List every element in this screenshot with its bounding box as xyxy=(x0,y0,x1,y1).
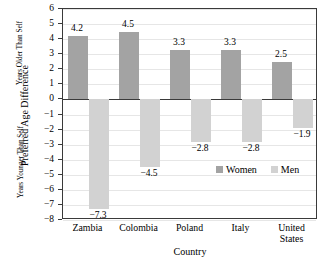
y-tick-label: 1 xyxy=(32,78,54,88)
bar-women xyxy=(272,62,292,100)
y-tick-mark xyxy=(58,83,62,84)
bar-women xyxy=(170,50,190,100)
y-tick-label: 4 xyxy=(32,33,54,43)
bar-men xyxy=(293,99,313,128)
y-tick-label: −1 xyxy=(32,109,54,119)
bar-women xyxy=(221,50,241,100)
legend-label: Men xyxy=(281,164,299,175)
bar-men xyxy=(191,99,211,141)
x-tick-label: Zambia xyxy=(62,222,113,233)
y-tick-label: 0 xyxy=(32,93,54,103)
legend-label: Women xyxy=(226,164,257,175)
x-tick-label-line: States xyxy=(266,233,317,244)
y-tick-mark xyxy=(58,98,62,99)
legend: WomenMen xyxy=(216,164,299,175)
legend-swatch-men xyxy=(271,166,278,173)
x-tick-label-line: Colombia xyxy=(113,222,164,233)
y-tick-mark xyxy=(58,204,62,205)
y-tick-mark xyxy=(58,68,62,69)
bar-women xyxy=(119,32,139,100)
y-tick-mark xyxy=(58,189,62,190)
gridline xyxy=(63,9,316,10)
y-tick-mark xyxy=(58,114,62,115)
bar-women xyxy=(68,36,88,99)
y-tick-label: 5 xyxy=(32,18,54,28)
y-tick-label: 2 xyxy=(32,63,54,73)
legend-swatch-women xyxy=(216,166,223,173)
y-tick-label: −7 xyxy=(32,199,54,209)
bar-value-label-women: 4.2 xyxy=(58,23,96,33)
x-axis-title: Country xyxy=(60,246,320,257)
bar-value-label-men: −1.9 xyxy=(282,129,322,139)
y-tick-label: −6 xyxy=(32,184,54,194)
bar-men xyxy=(89,99,109,209)
y-tick-label: −8 xyxy=(32,214,54,224)
legend-entry: Men xyxy=(271,164,299,175)
y-tick-mark xyxy=(58,38,62,39)
bar-value-label-men: −2.8 xyxy=(231,143,271,153)
y-tick-mark xyxy=(58,53,62,54)
x-tick-label: Colombia xyxy=(113,222,164,233)
y-tick-label: −2 xyxy=(32,124,54,134)
legend-entry: Women xyxy=(216,164,257,175)
y-tick-mark xyxy=(58,219,62,220)
y-axis-subtitle-lower: Years Younger Than Self xyxy=(17,114,25,210)
x-tick-label: UnitedStates xyxy=(266,222,317,244)
y-tick-mark xyxy=(58,174,62,175)
bar-value-label-women: 4.5 xyxy=(109,19,147,29)
bar-value-label-men: −4.5 xyxy=(129,168,169,178)
x-tick-label: Italy xyxy=(215,222,266,233)
bar-value-label-women: 2.5 xyxy=(262,49,300,59)
y-tick-label: −4 xyxy=(32,154,54,164)
bar-men xyxy=(140,99,160,167)
y-tick-label: −5 xyxy=(32,169,54,179)
y-tick-mark xyxy=(58,129,62,130)
bar-value-label-women: 3.3 xyxy=(211,37,249,47)
y-tick-mark xyxy=(58,8,62,9)
gridline xyxy=(63,24,316,25)
y-axis-subtitle-upper: Years Older Than Self xyxy=(16,8,24,98)
bar-value-label-men: −2.8 xyxy=(180,143,220,153)
bar-men xyxy=(242,99,262,141)
bar-value-label-men: −7.3 xyxy=(78,210,118,220)
x-tick-label-line: United xyxy=(266,222,317,233)
y-tick-mark xyxy=(58,144,62,145)
x-tick-label: Poland xyxy=(164,222,215,233)
x-tick-label-line: Italy xyxy=(215,222,266,233)
bar-value-label-women: 3.3 xyxy=(160,37,198,47)
y-tick-label: 3 xyxy=(32,48,54,58)
x-tick-label-line: Zambia xyxy=(62,222,113,233)
bar-chart: Preferred Age Difference Years Older Tha… xyxy=(0,0,323,263)
y-tick-mark xyxy=(58,159,62,160)
y-tick-label: −3 xyxy=(32,139,54,149)
y-tick-label: 6 xyxy=(32,3,54,13)
x-tick-label-line: Poland xyxy=(164,222,215,233)
